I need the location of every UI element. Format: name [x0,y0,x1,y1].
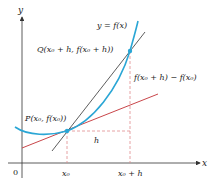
axis-y-label: y [17,5,24,15]
tick-x0h-label: x₀ + h [118,169,143,178]
run-label: h [94,136,99,145]
point-p-label: P(x₀, f(x₀)) [24,114,66,123]
curve-label: y = f(x) [96,21,127,30]
rise-label: f(x₀ + h) − f(x₀) [133,73,197,82]
secant-diagram: y x 0 x₀ x₀ + h y = f(x) Q(x₀ + h, f(x₀ … [0,0,212,185]
axis-x-label: x [202,158,207,168]
origin-label: 0 [13,168,18,177]
point-p [65,129,69,133]
point-q-label: Q(x₀ + h, f(x₀ + h)) [37,45,113,54]
point-q [128,49,132,53]
tick-x0-label: x₀ [62,169,71,178]
